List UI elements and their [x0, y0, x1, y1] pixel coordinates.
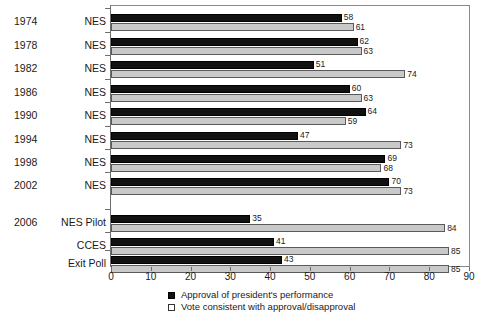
bar-consistent [111, 224, 445, 232]
survey-label: NES [40, 40, 106, 51]
bar-approval [111, 215, 250, 223]
survey-label: NES [40, 134, 106, 145]
y-axis-tick [105, 55, 110, 56]
bar-value-approval: 60 [352, 84, 361, 92]
bar-value-approval: 62 [360, 37, 369, 45]
bar-value-approval: 41 [276, 237, 285, 245]
bar-approval [111, 132, 298, 140]
bar-consistent [111, 265, 449, 273]
x-axis-tick-label: 10 [145, 272, 156, 282]
x-axis-tick-label: 90 [463, 272, 474, 282]
survey-label: NES [40, 180, 106, 191]
y-axis-tick [105, 149, 110, 150]
bar-value-approval: 58 [344, 13, 353, 21]
bar-consistent [111, 164, 381, 172]
bar-approval [111, 85, 350, 93]
bar-value-approval: 64 [368, 107, 377, 115]
x-axis-tick-label: 50 [304, 272, 315, 282]
legend-label: Approval of president's performance [181, 289, 333, 301]
survey-label: CCES [40, 240, 106, 251]
bar-value-consistent: 61 [356, 23, 365, 31]
bar-consistent [111, 70, 405, 78]
legend-item: Approval of president's performance [168, 289, 355, 301]
legend-swatch-icon [168, 304, 175, 311]
bar-consistent [111, 23, 354, 31]
bar-consistent [111, 247, 449, 255]
bar-value-consistent: 74 [407, 70, 416, 78]
x-axis-tick-label: 20 [185, 272, 196, 282]
y-axis-tick [105, 172, 110, 173]
survey-label: NES [40, 87, 106, 98]
legend-label: Vote consistent with approval/disapprova… [181, 301, 355, 313]
bar-value-approval: 70 [391, 177, 400, 185]
bar-value-approval: 51 [316, 60, 325, 68]
bar-consistent [111, 141, 401, 149]
bar-value-approval: 43 [284, 255, 293, 263]
survey-label: NES [40, 110, 106, 121]
x-axis-tick-label: 40 [265, 272, 276, 282]
bar-consistent [111, 117, 346, 125]
y-axis-tick [105, 209, 110, 210]
x-axis-tick-label: 60 [344, 272, 355, 282]
y-axis-tick [105, 8, 110, 9]
bar-approval [111, 256, 282, 264]
bar-value-consistent: 59 [348, 117, 357, 125]
bar-approval [111, 61, 314, 69]
bar-approval [111, 178, 389, 186]
bar-consistent [111, 47, 362, 55]
plot-area [110, 5, 470, 267]
legend: Approval of president's performanceVote … [168, 289, 355, 313]
legend-swatch-icon [168, 292, 175, 299]
bar-value-consistent: 68 [383, 164, 392, 172]
y-axis-tick [105, 79, 110, 80]
x-axis-tick-label: 70 [384, 272, 395, 282]
bar-value-consistent: 85 [451, 265, 460, 273]
bar-value-approval: 35 [252, 214, 261, 222]
bar-value-consistent: 63 [364, 47, 373, 55]
survey-label: NES [40, 16, 106, 27]
x-axis-tick-label: 0 [108, 272, 114, 282]
y-axis-tick [105, 102, 110, 103]
bar-consistent [111, 94, 362, 102]
y-axis-tick [105, 232, 110, 233]
legend-item: Vote consistent with approval/disapprova… [168, 301, 355, 313]
bar-value-consistent: 85 [451, 247, 460, 255]
survey-label: NES Pilot [40, 217, 106, 228]
y-axis-tick [105, 126, 110, 127]
bar-approval [111, 108, 366, 116]
bar-consistent [111, 187, 401, 195]
bar-value-consistent: 73 [403, 141, 412, 149]
y-axis-tick [105, 32, 110, 33]
bar-value-approval: 47 [300, 131, 309, 139]
x-axis-tick-label: 30 [225, 272, 236, 282]
bar-approval [111, 238, 274, 246]
bar-approval [111, 14, 342, 22]
bar-value-consistent: 73 [403, 187, 412, 195]
survey-label: Exit Poll [40, 258, 106, 269]
bar-value-consistent: 84 [447, 224, 456, 232]
plot-inner [111, 6, 469, 266]
bar-approval [111, 155, 385, 163]
survey-label: NES [40, 157, 106, 168]
survey-label: NES [40, 63, 106, 74]
bar-value-approval: 69 [387, 154, 396, 162]
x-axis-tick-label: 80 [424, 272, 435, 282]
bar-value-consistent: 63 [364, 94, 373, 102]
y-axis-tick [105, 250, 110, 251]
bar-chart: 197419781982198619901994199820022006 NES… [0, 0, 489, 321]
bar-approval [111, 38, 358, 46]
